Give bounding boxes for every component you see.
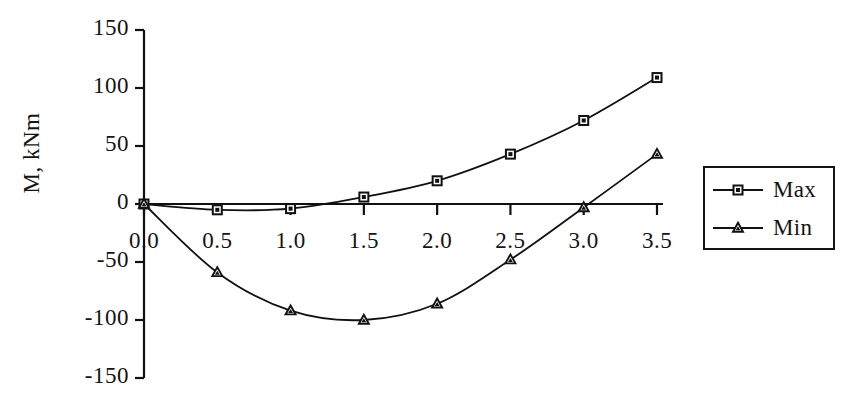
data-point-marker-square (286, 204, 295, 213)
chart-legend: MaxMin (703, 166, 835, 250)
data-point-marker-triangle (505, 254, 515, 263)
marker-square-center (508, 152, 512, 156)
data-point-marker-square (433, 176, 442, 185)
series-min (139, 149, 662, 324)
chart-figure: M, kNm 150100500-50-100-150 0.00.51.01.5… (0, 0, 853, 410)
legend-marker-triangle (711, 217, 765, 239)
legend-item-max[interactable]: Max (705, 172, 837, 208)
marker-square-center (289, 207, 293, 211)
data-point-marker-triangle (286, 305, 296, 314)
marker-square-center (736, 188, 740, 192)
data-point-marker-square (734, 186, 743, 195)
series-max (140, 73, 662, 214)
data-point-marker-square (506, 150, 515, 159)
legend-label: Max (773, 177, 816, 203)
data-point-marker-triangle (652, 149, 662, 158)
data-point-marker-triangle (359, 315, 369, 324)
series-line-max (144, 78, 657, 211)
data-point-marker-square (653, 73, 662, 82)
data-point-marker-square (359, 193, 368, 202)
data-point-marker-square (579, 116, 588, 125)
legend-label: Min (773, 215, 812, 241)
series-group (139, 73, 662, 324)
legend-item-min[interactable]: Min (705, 210, 837, 246)
series-line-min (144, 154, 657, 320)
marker-square-center (655, 76, 659, 80)
marker-square-center (215, 208, 219, 212)
data-point-marker-square (213, 205, 222, 214)
data-point-marker-triangle (432, 298, 442, 307)
marker-square-center (435, 179, 439, 183)
data-point-marker-triangle (212, 267, 222, 276)
marker-square-center (362, 195, 366, 199)
legend-marker-square (711, 179, 765, 201)
marker-square-center (582, 118, 586, 122)
data-point-marker-triangle (733, 223, 743, 232)
